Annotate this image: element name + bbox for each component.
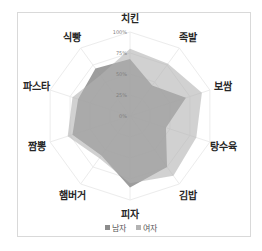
category-label: 짬뽕	[28, 140, 46, 152]
category-label: 보쌈	[214, 80, 233, 92]
axis-tick-label: 100%	[113, 29, 128, 35]
legend-label-female: 여자	[143, 222, 157, 233]
category-label: 피자	[121, 208, 140, 220]
axis-tick-label: 0%	[119, 113, 127, 119]
category-label: 햄버거	[59, 189, 86, 201]
radar-chart: 0%25%50%75%100%치킨족발보쌈탕수육김밥피자햄버거짬뽕파스타식빵	[0, 0, 262, 251]
chart-legend: 남자 여자	[0, 222, 262, 233]
legend-label-male: 남자	[112, 222, 126, 233]
legend-swatch-female	[136, 225, 141, 230]
legend-item-male[interactable]: 남자	[105, 222, 126, 233]
series-female[interactable]	[68, 49, 202, 183]
axis-tick-label: 25%	[116, 92, 127, 98]
category-label: 김밥	[179, 189, 198, 201]
axis-tick-label: 75%	[116, 50, 127, 56]
category-label: 족발	[179, 31, 198, 43]
category-label: 파스타	[23, 80, 51, 92]
axis-tick-label: 50%	[116, 71, 127, 77]
legend-swatch-male	[105, 225, 110, 230]
category-label: 식빵	[63, 31, 82, 43]
category-label: 탕수육	[210, 140, 237, 152]
legend-item-female[interactable]: 여자	[136, 222, 157, 233]
category-label: 치킨	[121, 12, 139, 24]
